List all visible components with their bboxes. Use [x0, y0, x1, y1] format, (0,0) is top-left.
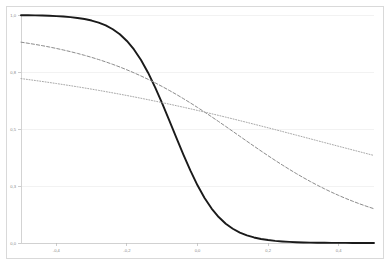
- x-tick-label-2: 0,0: [195, 248, 201, 253]
- x-tick-label-4: 0,4: [336, 248, 342, 253]
- y-tick-label-2: 0,5: [10, 127, 16, 132]
- x-tick-label-0: -0,4: [53, 248, 61, 253]
- y-tick-label-3: 0,8: [10, 70, 16, 75]
- y-tick-label-4: 1,0: [10, 13, 16, 18]
- x-tick-label-1: -0,2: [123, 248, 131, 253]
- y-tick-label-0: 0,0: [10, 241, 16, 246]
- y-tick-label-1: 0,3: [10, 184, 16, 189]
- chart-container: 0,00,30,50,81,0 -0,4-0,20,00,20,4: [0, 0, 391, 267]
- line-chart: 0,00,30,50,81,0 -0,4-0,20,00,20,4: [0, 0, 391, 267]
- x-tick-label-3: 0,2: [265, 248, 271, 253]
